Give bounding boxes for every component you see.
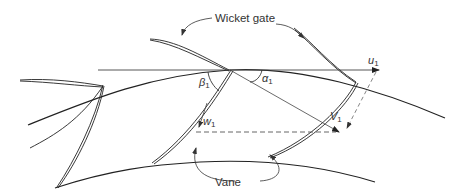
w1-label: w1: [203, 115, 216, 129]
turbine-velocity-diagram: Wicket gate Vane u1 V1 w1 α1 β1: [0, 0, 463, 195]
V1-label: V1: [330, 110, 342, 124]
velocity-vector-V1: [230, 70, 339, 132]
beta1-label: β1: [198, 76, 210, 90]
wicket-gate-leader-left: [182, 18, 212, 35]
u1-label: u1: [368, 54, 379, 68]
alpha1-label: α1: [262, 72, 273, 86]
vane-label: Vane: [215, 176, 241, 188]
vane-leader-right: [260, 155, 279, 181]
wicket-gate-leader-right: [276, 24, 304, 38]
wicket-gate-label: Wicket gate: [215, 12, 275, 24]
outer-rotor-arc: [28, 70, 445, 125]
runner-vane-right: [268, 82, 356, 157]
wicket-gate-blades: [20, 28, 356, 87]
runner-vane-left: [57, 85, 103, 187]
wicket-gate-blade-right: [294, 28, 356, 82]
wicket-gate-blade-left: [20, 79, 103, 86]
vane-edge-line: [30, 86, 103, 148]
runner-vane-middle: [152, 70, 231, 163]
angle-alpha1-arc: [250, 70, 262, 82]
